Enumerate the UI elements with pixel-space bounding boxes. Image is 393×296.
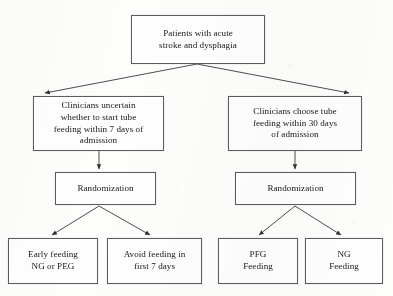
- node-clinicians-choose-tube-feeding: Clinicians choose tube feeding within 30…: [228, 96, 362, 151]
- flowchart-page: Patients with acute stroke and dysphagia…: [0, 0, 393, 296]
- node-label: NG Feeding: [326, 249, 362, 272]
- connector-randomization-left-to-out-2: [99, 206, 150, 235]
- node-label: Patients with acute stroke and dysphagia: [156, 28, 240, 51]
- node-avoid-feeding-first-7-days: Avoid feeding in first 7 days: [107, 238, 202, 284]
- connector-top-to-mid-right: [197, 64, 349, 93]
- connector-randomization-right-to-out-4: [295, 206, 341, 235]
- node-label: Clinicians choose tube feeding within 30…: [250, 106, 340, 141]
- node-pfg-feeding: PFG Feeding: [218, 238, 298, 284]
- node-label: Early feeding NG or PEG: [25, 249, 81, 272]
- node-label: Avoid feeding in first 7 days: [121, 249, 189, 272]
- node-randomization-right: Randomization: [235, 172, 356, 205]
- node-ng-feeding: NG Feeding: [305, 238, 383, 284]
- node-label: Randomization: [264, 183, 326, 195]
- node-label: PFG Feeding: [240, 249, 276, 272]
- connector-top-to-mid-left: [45, 64, 197, 93]
- connector-randomization-right-to-out-3: [259, 206, 295, 235]
- node-clinicians-uncertain: Clinicians uncertain whether to start tu…: [33, 96, 164, 151]
- node-patients-with-acute-stroke: Patients with acute stroke and dysphagia: [131, 15, 265, 64]
- node-randomization-left: Randomization: [55, 172, 156, 205]
- node-label: Clinicians uncertain whether to start tu…: [51, 100, 147, 146]
- node-label: Randomization: [74, 183, 136, 195]
- node-early-feeding-ng-or-peg: Early feeding NG or PEG: [8, 238, 98, 284]
- connector-randomization-left-to-out-1: [52, 206, 99, 235]
